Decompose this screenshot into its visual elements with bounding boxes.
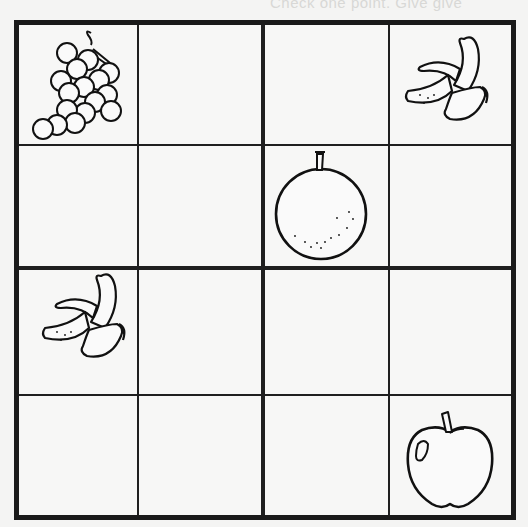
cell-r3-c2[interactable] [139,270,261,394]
cell-r4-c2[interactable] [139,396,261,515]
cell-r2-c2[interactable] [139,146,261,266]
cell-r2-c4[interactable] [390,146,511,266]
cell-r1-c3[interactable] [265,25,388,144]
grapes-icon [19,25,137,144]
cell-r3-c4[interactable] [390,270,511,394]
orange-icon [265,146,388,266]
cell-r3-c1[interactable] [19,270,137,394]
cell-r1-c2[interactable] [139,25,261,144]
cell-r3-c3[interactable] [265,270,388,394]
cell-r1-c4[interactable] [390,25,511,144]
sudoku-board [14,20,516,520]
cell-r4-c1[interactable] [19,396,137,515]
cell-r4-c4[interactable] [390,396,511,515]
banana-icon [390,25,511,144]
cell-r1-c1[interactable] [19,25,137,144]
banana-icon [19,270,137,394]
apple-icon [390,396,511,515]
cell-r2-c1[interactable] [19,146,137,266]
cell-r4-c3[interactable] [265,396,388,515]
cell-r2-c3[interactable] [265,146,388,266]
faded-header-text: Check one point. Give give [270,0,462,11]
